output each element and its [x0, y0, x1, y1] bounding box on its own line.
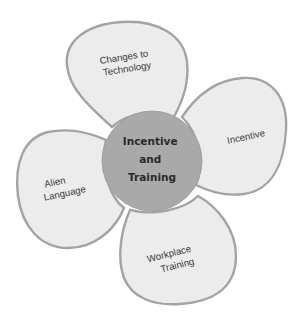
center-hub: Incentive and Training: [102, 111, 202, 211]
hub-label-line3: Training: [128, 171, 176, 183]
hub-label-line1: Incentive: [123, 135, 178, 147]
hub-label-line2: and: [139, 153, 161, 165]
petal-top: Changes to Technology: [67, 22, 188, 127]
flower-diagram: Changes to Technology Incentive Alien La…: [0, 0, 302, 321]
petal-bottom: Workplace Training: [120, 196, 236, 304]
